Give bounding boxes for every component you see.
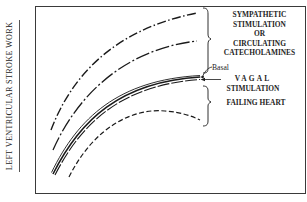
curve-failing-heart	[69, 111, 200, 177]
basal-arrow-icon	[200, 76, 204, 79]
sympathetic-line-3: OR	[212, 29, 307, 39]
sympathetic-line-1: SYMPATHETIC	[212, 10, 307, 20]
vagal-annotation-line-1: VAGAL	[222, 74, 284, 84]
brace-failing-heart-icon	[203, 86, 211, 126]
sympathetic-line-5: CATECHOLAMINES	[212, 48, 307, 58]
vagal-arrow-icon	[201, 78, 206, 81]
ventricular-function-diagram: LEFT VENTRICULAR STROKE WORK SYMPATHETIC…	[0, 0, 307, 202]
failing-heart-annotation: FAILING HEART	[216, 98, 296, 108]
vagal-annotation-line-2: STIMULATION	[222, 84, 284, 94]
basal-annotation: Basal	[212, 63, 229, 73]
curve-sympathetic-high	[51, 13, 197, 130]
curve-basal-outline	[52, 76, 201, 173]
sympathetic-annotation: SYMPATHETIC STIMULATION OR CIRCULATING C…	[212, 10, 307, 58]
sympathetic-line-4: CIRCULATING	[212, 39, 307, 49]
curve-basal	[53, 77, 200, 174]
sympathetic-line-2: STIMULATION	[212, 20, 307, 30]
brace-sympathetic-icon	[203, 8, 211, 73]
